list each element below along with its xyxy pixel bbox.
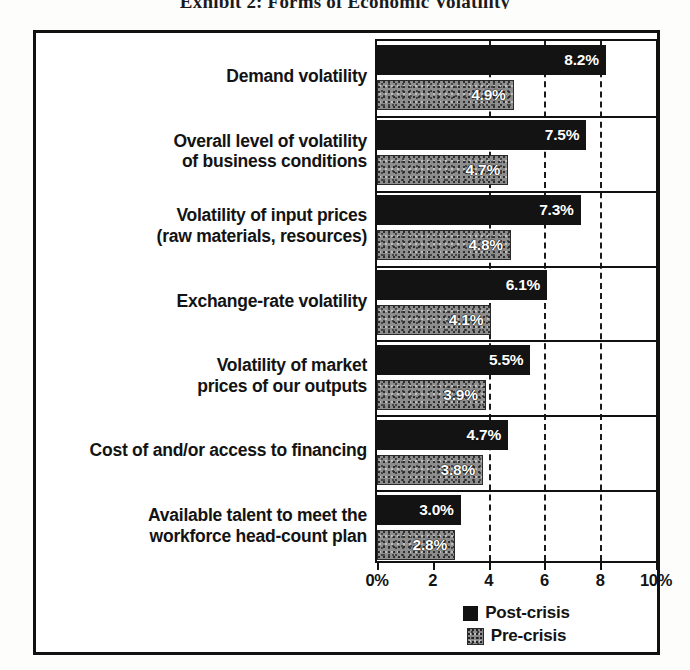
x-axis-tick [656,563,658,570]
category-label-line: of business conditions [182,151,367,172]
bar-pre-crisis: 3.9% [377,380,486,410]
bar-row: 4.7%3.8% [377,415,656,490]
category-label: Volatility of input prices(raw materials… [40,189,367,264]
category-label-line: Available talent to meet the [148,505,367,526]
bar-post-crisis: 7.3% [377,195,581,225]
plot-area: 8.2%4.9%7.5%4.7%7.3%4.8%6.1%4.1%5.5%3.9%… [375,39,658,563]
category-label: Demand volatility [40,39,367,114]
bar-value-label: 4.7% [467,426,509,444]
x-axis-tick [544,563,546,570]
bar-chart: Demand volatilityOverall level of volati… [36,33,663,658]
category-label-line: prices of our outputs [197,376,367,397]
bar-post-crisis: 5.5% [377,345,530,375]
bar-value-label: 4.1% [449,311,491,329]
bar-pre-crisis: 2.8% [377,530,455,560]
category-label: Overall level of volatilityof business c… [40,114,367,189]
x-axis-tick [489,563,491,570]
bar-row: 6.1%4.1% [377,266,656,341]
bar-post-crisis: 8.2% [377,45,606,75]
x-axis-tick-label: 0% [365,571,388,590]
category-label: Available talent to meet theworkforce he… [40,488,367,563]
bar-row: 5.5%3.9% [377,340,656,415]
bar-value-label: 6.1% [506,276,548,294]
bar-row: 7.5%4.7% [377,116,656,191]
x-axis-tick-label: 10% [640,571,672,590]
category-label-line: Demand volatility [226,66,367,87]
bar-pre-crisis: 4.9% [377,80,514,110]
bar-post-crisis: 3.0% [377,495,461,525]
x-axis-tick-label: 8 [596,571,605,590]
bar-value-label: 4.8% [468,236,510,254]
bar-value-label: 3.8% [440,461,482,479]
x-axis-tick [433,563,435,570]
page-title: Exhibit 2: Forms of Economic Volatility [0,0,690,9]
bar-value-label: 7.3% [539,201,581,219]
category-label: Cost of and/or access to financing [40,413,367,488]
category-label-line: (raw materials, resources) [157,226,367,247]
legend-label: Post-crisis [485,603,570,623]
category-label-line: workforce head-count plan [150,526,367,547]
bar-value-label: 4.9% [471,86,513,104]
bar-value-label: 8.2% [564,51,606,69]
legend-label: Pre-crisis [491,626,567,646]
bar-row: 3.0%2.8% [377,490,656,565]
x-axis-tick-label: 6 [540,571,549,590]
category-label-line: Volatility of market [217,355,367,376]
bar-value-label: 3.9% [443,386,485,404]
legend-item[interactable]: Post-crisis [375,603,658,623]
category-label: Exchange-rate volatility [40,264,367,339]
category-label-line: Exchange-rate volatility [177,291,367,312]
stippled-square-icon [467,628,484,645]
bar-pre-crisis: 4.7% [377,155,508,185]
bar-pre-crisis: 4.1% [377,305,491,335]
black-square-icon [463,606,478,621]
bar-value-label: 4.7% [466,161,508,179]
x-axis-tick-label: 4 [484,571,493,590]
bar-row: 8.2%4.9% [377,41,656,116]
bar-row: 7.3%4.8% [377,191,656,266]
bar-post-crisis: 7.5% [377,120,586,150]
bar-value-label: 2.8% [413,536,455,554]
category-label-line: Cost of and/or access to financing [90,440,367,461]
category-label-line: Volatility of input prices [176,205,367,226]
bar-post-crisis: 4.7% [377,420,508,450]
x-axis-tick [600,563,602,570]
bar-pre-crisis: 3.8% [377,455,483,485]
bar-value-label: 5.5% [489,351,531,369]
exhibit-page: Exhibit 2: Forms of Economic Volatility … [0,0,690,670]
bar-value-label: 3.0% [419,501,461,519]
bar-post-crisis: 6.1% [377,270,547,300]
bar-value-label: 7.5% [545,126,587,144]
x-axis-tick [377,563,379,570]
legend-item[interactable]: Pre-crisis [375,626,658,646]
x-axis-tick-label: 2 [428,571,437,590]
bar-pre-crisis: 4.8% [377,230,511,260]
category-label: Volatility of marketprices of our output… [40,338,367,413]
chart-legend: Post-crisisPre-crisis [375,603,658,649]
exhibit-frame: Demand volatilityOverall level of volati… [33,30,660,655]
category-label-line: Overall level of volatility [173,131,367,152]
